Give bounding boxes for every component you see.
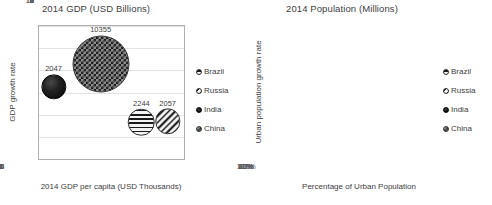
gridline — [39, 137, 184, 138]
legend-item-brazil-gdp[interactable]: Brazil — [196, 62, 228, 81]
legend-item-china-population[interactable]: China — [443, 119, 475, 138]
bubble-china[interactable] — [72, 35, 129, 92]
legend-gdp: BrazilRussiaIndiaChina — [196, 62, 228, 138]
y-axis-tick-label: 12 — [26, 0, 34, 5]
figure-canvas: 2014 GDP (USD Billions) 2047103552244205… — [0, 0, 492, 205]
legend-label: China — [204, 124, 225, 133]
legend-item-china-gdp[interactable]: China — [196, 119, 228, 138]
legend-item-brazil-population[interactable]: Brazil — [443, 62, 475, 81]
legend-label: China — [451, 124, 472, 133]
legend-item-russia-population[interactable]: Russia — [443, 81, 475, 100]
plot-area-gdp: 20471035522442057 — [38, 25, 185, 160]
x-axis-tick-label: 100% — [236, 162, 255, 171]
bubble-value-label-india: 2047 — [45, 64, 62, 73]
x-axis-tick-label: 16 — [0, 162, 4, 171]
bubble-brazil[interactable] — [128, 109, 155, 136]
axis-title-x-gdp: 2014 GDP per capita (USD Thousands) — [41, 182, 182, 191]
legend-marker-solid-icon — [443, 107, 449, 113]
legend-marker-checker-icon — [196, 126, 202, 132]
bubble-russia[interactable] — [155, 109, 180, 134]
gridline — [39, 26, 184, 27]
chart-title-population: 2014 Population (Millions) — [246, 3, 492, 14]
legend-label: India — [204, 105, 221, 114]
chart-title-gdp: 2014 GDP (USD Billions) — [0, 3, 246, 14]
legend-marker-checker-icon — [443, 126, 449, 132]
legend-marker-hstripe-icon — [196, 69, 202, 75]
legend-marker-solid-icon — [196, 107, 202, 113]
bubble-value-label-russia: 2057 — [159, 99, 176, 108]
bubble-value-label-brazil: 2244 — [133, 99, 150, 108]
legend-marker-dstripe-icon — [443, 88, 449, 94]
axis-title-y-gdp: GDP growth rate — [8, 62, 17, 121]
legend-item-india-gdp[interactable]: India — [196, 100, 228, 119]
legend-item-india-population[interactable]: India — [443, 100, 475, 119]
axis-title-y-population: Urban population growth rate — [254, 40, 263, 143]
legend-population: BrazilRussiaIndiaChina — [443, 62, 475, 138]
legend-marker-dstripe-icon — [196, 88, 202, 94]
legend-label: Russia — [204, 86, 228, 95]
legend-item-russia-gdp[interactable]: Russia — [196, 81, 228, 100]
legend-label: Brazil — [204, 67, 224, 76]
legend-marker-hstripe-icon — [443, 69, 449, 75]
bubble-india[interactable] — [41, 74, 66, 99]
legend-label: Brazil — [451, 67, 471, 76]
bubble-value-label-china: 10355 — [90, 25, 111, 34]
legend-label: Russia — [451, 86, 475, 95]
axis-title-x-population: Percentage of Urban Population — [302, 182, 416, 191]
legend-label: India — [451, 105, 468, 114]
